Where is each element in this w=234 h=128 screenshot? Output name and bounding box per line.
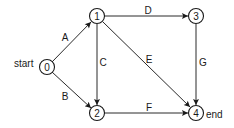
node-0: 0 xyxy=(40,60,55,75)
edge-labels: A B C D E F G xyxy=(62,5,207,113)
node-4: 4 xyxy=(189,106,204,121)
node-3: 3 xyxy=(189,9,204,24)
node-2: 2 xyxy=(90,106,105,121)
end-label: end xyxy=(206,109,223,120)
node-1-label: 1 xyxy=(94,11,100,22)
edge-label-c: C xyxy=(99,57,106,68)
node-1: 1 xyxy=(90,9,105,24)
edge-a xyxy=(52,22,91,62)
edge-label-g: G xyxy=(199,57,207,68)
edge-label-b: B xyxy=(62,91,69,102)
edge-b xyxy=(52,72,91,108)
start-label: start xyxy=(14,58,34,69)
edge-label-a: A xyxy=(62,32,69,43)
activity-network-diagram: A B C D E F G 0 1 2 3 4 start end xyxy=(0,0,234,128)
edge-label-f: F xyxy=(146,102,152,113)
node-0-label: 0 xyxy=(44,62,50,73)
node-3-label: 3 xyxy=(193,11,199,22)
edges xyxy=(52,16,196,113)
node-4-label: 4 xyxy=(193,108,199,119)
edge-e xyxy=(103,22,190,107)
node-2-label: 2 xyxy=(94,108,100,119)
edge-label-e: E xyxy=(146,54,153,65)
edge-label-d: D xyxy=(144,5,151,16)
